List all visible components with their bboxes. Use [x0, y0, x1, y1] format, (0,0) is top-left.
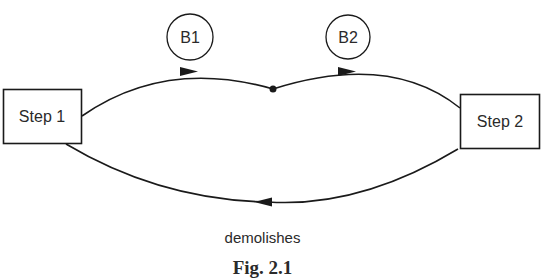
edge-step1-to-junction	[82, 78, 273, 116]
figure-caption: Fig. 2.1	[0, 257, 535, 279]
node-step2: Step 2	[461, 95, 540, 149]
node-step2-label: Step 2	[477, 113, 523, 130]
node-b1-label: B1	[180, 29, 200, 46]
edge-junction-to-step2	[273, 74, 460, 108]
arrow-b1-icon	[180, 67, 198, 76]
node-b1: B1	[167, 14, 213, 60]
edge-label-demolishes: demolishes	[0, 229, 535, 246]
node-step1-label: Step 1	[19, 108, 65, 125]
edge-step2-to-step1	[66, 144, 458, 203]
node-step1: Step 1	[4, 90, 82, 144]
node-b2: B2	[326, 15, 370, 59]
node-b2-label: B2	[338, 29, 358, 46]
junction-dot	[270, 86, 277, 93]
arrow-demolishes-icon	[254, 198, 272, 207]
